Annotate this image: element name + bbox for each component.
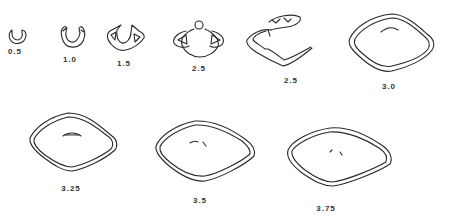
stage-3.0-outline [349,14,434,71]
stage-2.5b-outline [247,15,312,66]
stage-3.5-outline [156,121,255,181]
stage-label-1.5: 1.5 [117,59,131,68]
stage-label-3.25: 3.25 [61,184,81,193]
stage-label-1.0: 1.0 [63,55,77,64]
stage-0.5-outline [9,30,26,44]
stage-label-3.75: 3.75 [316,204,336,213]
stage-label-3.0: 3.0 [382,82,396,91]
stage-3.25-outline [30,113,117,171]
stage-3.75-outline [288,128,392,186]
stage-label-2.5b: 2.5 [284,76,298,85]
stage-1.5-outline [107,25,144,50]
stage-label-0.5: 0.5 [8,47,22,56]
stage-2.5a-outline [174,21,224,57]
stage-label-2.5a: 2.5 [192,64,206,73]
stage-1.0-outline [61,27,84,48]
stage-label-3.5: 3.5 [193,196,207,205]
